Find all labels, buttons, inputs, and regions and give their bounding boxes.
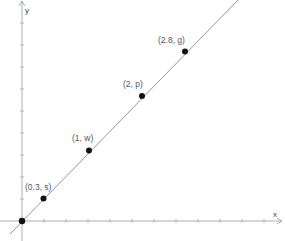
x-axis-label: x <box>273 210 277 219</box>
x-axis: x <box>0 210 282 224</box>
point-0-3-s <box>41 196 47 202</box>
label-2-8-g: (2.8, g) <box>158 35 185 45</box>
line-graph: x y (0.3, s) (1, w) (2, p) (2.8, g) <box>0 0 285 241</box>
label-0-3-s: (0.3, s) <box>25 182 52 192</box>
point-labels: (0.3, s) (1, w) (2, p) (2.8, g) <box>25 35 185 192</box>
point-origin <box>19 218 25 224</box>
point-2-p <box>139 93 145 99</box>
point-1-w <box>86 148 92 154</box>
y-axis: y <box>19 1 29 241</box>
y-axis-label: y <box>25 6 29 15</box>
label-2-p: (2, p) <box>123 79 143 89</box>
label-1-w: (1, w) <box>72 133 93 143</box>
data-points <box>19 49 188 225</box>
point-2-8-g <box>182 49 188 55</box>
